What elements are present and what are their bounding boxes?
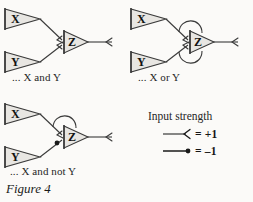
panel-x-or-y: X Y Z ... X or Y — [126, 0, 253, 101]
diagram-x-or-y: X Y Z — [126, 0, 253, 101]
legend-value-excitatory: = +1 — [195, 128, 218, 140]
open-arrowhead-icon — [162, 128, 192, 140]
node-y: Y — [131, 51, 166, 73]
edge-x-to-z — [40, 19, 62, 40]
node-y-label: Y — [11, 55, 20, 69]
node-z-label: Z — [194, 35, 202, 49]
node-x-label: X — [11, 107, 20, 121]
legend-title: Input strength — [148, 110, 212, 122]
diagram-x-and-y: X Y Z — [0, 0, 127, 101]
node-x-label: X — [137, 12, 146, 26]
caption-x-and-y: ... X and Y — [12, 71, 61, 83]
caption-x-or-y: ... X or Y — [138, 71, 180, 83]
node-x-label: X — [11, 12, 20, 26]
legend-input-strength: Input strength = +1 = –1 — [126, 100, 253, 202]
node-y: Y — [5, 51, 40, 73]
node-x: X — [5, 8, 40, 30]
node-x: X — [5, 103, 40, 125]
legend-row-inhibitory: = –1 — [162, 145, 217, 157]
node-z: Z — [64, 125, 88, 149]
inhibitory-dot-y-to-z-icon — [55, 141, 60, 146]
panel-x-and-y: X Y Z ... X and Y — [0, 0, 127, 101]
filled-dot-icon — [162, 145, 192, 157]
figure-label: Figure 4 — [6, 181, 51, 197]
legend-value-inhibitory: = –1 — [195, 145, 217, 157]
node-x: X — [131, 8, 166, 30]
node-z-label: Z — [68, 35, 76, 49]
legend-row-excitatory: = +1 — [162, 128, 218, 140]
node-y-label: Y — [11, 150, 20, 164]
node-z-label: Z — [68, 130, 76, 144]
node-z: Z — [190, 30, 214, 54]
node-y-label: Y — [137, 55, 146, 69]
edge-y-to-z — [166, 45, 188, 62]
caption-x-and-not-y: ... X and not Y — [10, 165, 76, 177]
figure-4: X Y Z ... X and Y — [0, 0, 253, 202]
node-z: Z — [64, 30, 88, 54]
edge-y-to-z — [40, 45, 62, 62]
